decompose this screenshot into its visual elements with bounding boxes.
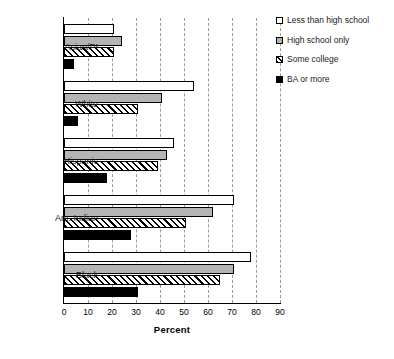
bar [64, 195, 234, 205]
bar-row [64, 24, 280, 34]
bar-row [64, 116, 280, 126]
x-tick-80: 80 [245, 307, 267, 317]
x-tick-0: 0 [53, 307, 75, 317]
legend-item-2[interactable]: Some college [276, 55, 392, 64]
legend-swatch-icon [276, 56, 283, 63]
bar-row [64, 230, 280, 240]
legend-label: BA or more [287, 75, 330, 84]
category-label-hispanic: Hispanic [63, 156, 98, 166]
bar [64, 59, 74, 69]
category-label-am-indian: Am. Indian [55, 213, 98, 223]
bar-row [64, 195, 280, 205]
legend-item-0[interactable]: Less than high school [276, 16, 392, 25]
bar-row [64, 138, 280, 148]
bar-row [64, 173, 280, 183]
legend-swatch-icon [276, 37, 283, 44]
bar-row [64, 81, 280, 91]
bar-row [64, 252, 280, 262]
x-tick-40: 40 [149, 307, 171, 317]
bar-chart: 0102030405060708090 Percent Less than hi… [0, 0, 394, 359]
bar [64, 252, 251, 262]
x-tick-20: 20 [101, 307, 123, 317]
x-tick-90: 90 [269, 307, 291, 317]
legend-label: High school only [287, 36, 349, 45]
bar-row [64, 59, 280, 69]
category-label-white: White [75, 99, 98, 109]
bar [64, 230, 131, 240]
legend-label: Some college [287, 55, 339, 64]
bar [64, 173, 107, 183]
bar [64, 24, 114, 34]
legend-item-3[interactable]: BA or more [276, 75, 392, 84]
legend-item-1[interactable]: High school only [276, 36, 392, 45]
chart-legend: Less than high schoolHigh school onlySom… [276, 16, 392, 94]
bar-row [64, 287, 280, 297]
x-tick-50: 50 [173, 307, 195, 317]
bar [64, 116, 78, 126]
legend-swatch-icon [276, 17, 283, 24]
x-tick-10: 10 [77, 307, 99, 317]
category-label-black: Black [76, 270, 98, 280]
legend-label: Less than high school [287, 16, 369, 25]
category-label-asian-pi: Asian/PI [64, 42, 98, 52]
bar [64, 287, 138, 297]
bar [64, 81, 194, 91]
x-tick-60: 60 [197, 307, 219, 317]
x-axis-title: Percent [64, 324, 280, 335]
bar [64, 138, 174, 148]
x-axis-line [63, 303, 281, 304]
legend-swatch-icon [276, 76, 283, 83]
x-tick-30: 30 [125, 307, 147, 317]
x-tick-70: 70 [221, 307, 243, 317]
